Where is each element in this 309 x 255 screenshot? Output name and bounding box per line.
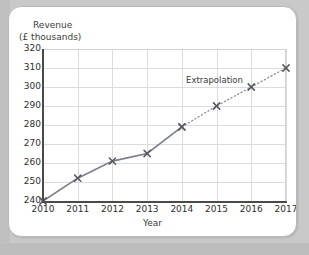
y-tick-label: 290: [11, 100, 41, 110]
x-tick-label: 2011: [61, 204, 95, 214]
x-axis-label: Year: [9, 218, 296, 228]
x-axis-tick-labels: 20102011201220132014201520162017: [43, 204, 286, 218]
y-tick-label: 310: [11, 62, 41, 72]
x-tick-label: 2015: [200, 204, 234, 214]
plot-area: [43, 49, 286, 201]
x-tick-label: 2014: [165, 204, 199, 214]
gridline-vertical: [286, 49, 287, 201]
y-axis-label-line2: (£ thousands): [19, 31, 81, 43]
series-line: [43, 127, 182, 201]
y-axis-label-line1: Revenue: [19, 19, 81, 31]
y-tick-label: 300: [11, 81, 41, 91]
y-tick-label: 250: [11, 176, 41, 186]
x-tick-label: 2017: [269, 204, 297, 214]
x-tick-label: 2012: [95, 204, 129, 214]
chart-card: Revenue (£ thousands) 240250260270280290…: [8, 6, 297, 237]
y-tick-label: 320: [11, 43, 41, 53]
data-point-marker: [75, 175, 81, 181]
x-tick-label: 2013: [130, 204, 164, 214]
x-axis-line: [42, 201, 287, 203]
data-point-marker: [179, 124, 185, 130]
screenshot-root: Revenue (£ thousands) 240250260270280290…: [0, 0, 309, 255]
x-tick-label: 2016: [234, 204, 268, 214]
y-axis-tick-labels: 240250260270280290300310320: [9, 49, 41, 201]
data-point-marker: [213, 103, 219, 109]
x-tick-label: 2010: [26, 204, 60, 214]
y-axis-line: [42, 49, 44, 203]
extrapolation-annotation: Extrapolation: [186, 75, 243, 85]
data-point-marker: [248, 84, 254, 90]
y-tick-label: 270: [11, 138, 41, 148]
y-axis-label: Revenue (£ thousands): [19, 19, 81, 43]
series-lines: [43, 49, 286, 201]
y-tick-label: 260: [11, 157, 41, 167]
y-tick-label: 280: [11, 119, 41, 129]
background-bottom-strip: [0, 243, 309, 255]
